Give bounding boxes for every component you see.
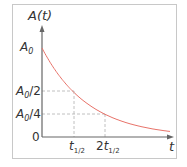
decay-curve: [42, 48, 170, 131]
x-tick-2t-half: 2t1/2: [96, 139, 120, 155]
y-axis-arrow-icon: [40, 25, 45, 32]
origin-label: 0: [32, 130, 40, 144]
decay-chart: A(t) A0 A0/2 A0/4 0 t1/2 2t1/2 t: [0, 0, 187, 167]
y-axis-title: A(t): [27, 8, 52, 23]
y-tick-a0-half: A0/2: [15, 84, 41, 100]
guide-lines: [42, 91, 105, 137]
x-axis-title: t: [169, 139, 175, 154]
x-tick-t-half: t1/2: [69, 139, 85, 155]
y-tick-a0: A0: [19, 40, 33, 56]
y-tick-a0-quarter: A0/4: [15, 107, 41, 123]
